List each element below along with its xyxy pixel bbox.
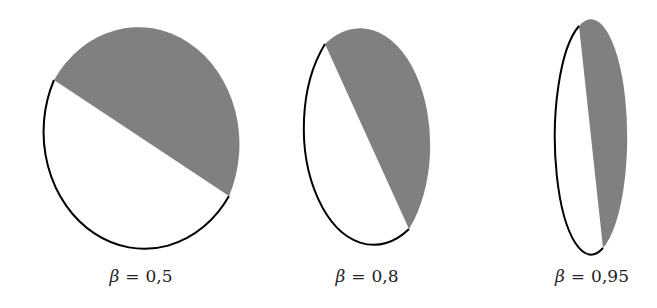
beta-label-3: β=0,95 <box>554 266 629 286</box>
beta-label-2: β=0,8 <box>334 266 398 286</box>
ellipse-figure-2: β=0,8 <box>304 28 430 286</box>
shaded-segment-1 <box>54 27 239 196</box>
ellipse-diagram: β=0,5 β=0,8 β=0,95 <box>0 0 657 308</box>
ellipse-figure-1: β=0,5 <box>44 27 240 286</box>
shaded-segment-3 <box>579 19 627 248</box>
ellipse-figure-3: β=0,95 <box>554 19 629 286</box>
shaded-segment-2 <box>325 28 430 229</box>
beta-label-1: β=0,5 <box>108 266 172 286</box>
